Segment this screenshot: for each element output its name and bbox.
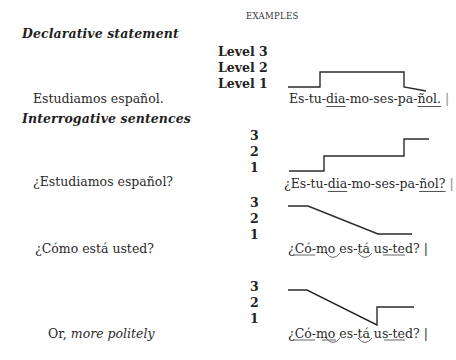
intonation-contours bbox=[0, 0, 456, 360]
linking-arc bbox=[358, 253, 372, 258]
linking-arc bbox=[358, 338, 372, 343]
linking-arc bbox=[326, 253, 340, 258]
yes-no-contour-line bbox=[289, 139, 429, 171]
polite-question-contour-line bbox=[288, 290, 414, 325]
declarative-contour-line bbox=[288, 72, 426, 91]
info-question-contour-line bbox=[288, 206, 412, 234]
